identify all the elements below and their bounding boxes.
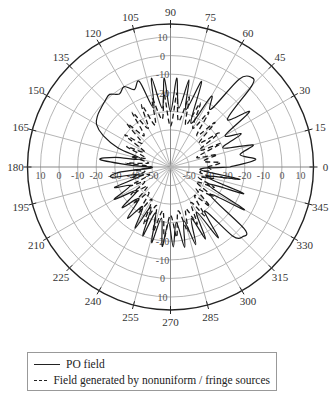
angle-tick-label: 30 — [299, 84, 311, 96]
legend-label-po-field: PO field — [66, 356, 105, 372]
angle-tick-label: 270 — [162, 316, 179, 328]
angle-tick-label: 210 — [28, 239, 45, 251]
angle-tick-label: 120 — [85, 27, 102, 39]
angle-tick-label: 15 — [315, 121, 327, 133]
radial-tick-label: 0 — [160, 273, 165, 284]
angle-tick-label: 255 — [122, 311, 139, 323]
radial-tick-label: 10 — [296, 170, 306, 181]
angle-tick-label: 300 — [240, 295, 257, 307]
angle-tick-label: 180 — [7, 161, 24, 173]
radial-tick-label: 0 — [279, 170, 284, 181]
radial-tick-label: -10 — [257, 170, 270, 181]
radial-tick-label: -50 — [182, 170, 195, 181]
spoke-line — [171, 167, 272, 268]
angle-tick-label: 165 — [13, 121, 30, 133]
legend: PO field Field generated by nonuniform /… — [27, 352, 277, 391]
angle-tick-label: 45 — [275, 51, 287, 63]
legend-label-fringe-field: Field generated by nonuniform / fringe s… — [53, 372, 270, 388]
angle-tick-label: 60 — [243, 27, 255, 39]
spoke-line — [32, 130, 170, 167]
polar-chart: -50-50-40-40-30-30-20-20-20-20-10-10-10-… — [0, 0, 334, 345]
radial-tick-label: -10 — [71, 170, 84, 181]
angle-tick-label: 135 — [53, 51, 70, 63]
radial-tick-label: 10 — [36, 170, 46, 181]
angle-tick-label: 240 — [85, 295, 102, 307]
angle-tick-label: 315 — [272, 271, 289, 283]
radial-tick-label: -10 — [156, 69, 169, 80]
angle-tick-label: 75 — [205, 11, 217, 23]
radial-tick-label: 0 — [57, 170, 62, 181]
solid-line-icon — [34, 364, 60, 365]
angle-tick-label: 225 — [53, 271, 70, 283]
angle-tick-label: 0 — [323, 161, 329, 173]
legend-entry-fringe-field: Field generated by nonuniform / fringe s… — [34, 372, 270, 388]
angle-tick-label: 195 — [13, 201, 30, 213]
spoke-line — [69, 66, 170, 167]
radial-tick-label: -20 — [90, 170, 103, 181]
angle-tick-label: 330 — [296, 239, 313, 251]
radial-tick-label: 10 — [158, 292, 168, 303]
radial-tick-label: 10 — [158, 32, 168, 43]
angle-tick-label: 90 — [165, 6, 177, 18]
angle-tick-label: 345 — [312, 201, 329, 213]
angle-tick-label: 150 — [28, 84, 45, 96]
radial-tick-label: -10 — [156, 255, 169, 266]
radial-tick-label: 0 — [160, 51, 165, 62]
dashed-line-icon — [34, 380, 47, 381]
angle-tick-label: 285 — [202, 311, 219, 323]
radial-tick-label: -50 — [145, 170, 158, 181]
legend-entry-po-field: PO field — [34, 356, 270, 372]
angle-tick-label: 105 — [122, 11, 139, 23]
